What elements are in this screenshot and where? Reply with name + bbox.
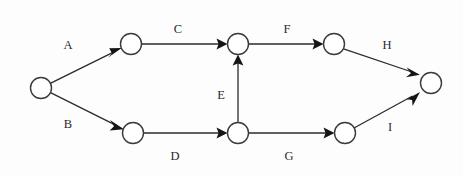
edge-label-i: I [388, 120, 392, 134]
node-n8[interactable] [335, 123, 356, 144]
node-n3[interactable] [228, 34, 249, 55]
edge-label-h: H [382, 38, 391, 52]
nodes-layer [31, 34, 442, 144]
edge-label-d: D [170, 149, 179, 163]
edge-a-line [50, 52, 114, 84]
edge-label-f: F [284, 22, 291, 36]
graph-svg: A B C D E F G H I [0, 0, 463, 176]
diagram-canvas: A B C D E F G H I [0, 0, 463, 176]
edge-a-arrowhead [108, 48, 122, 58]
edge-c [142, 39, 228, 50]
node-n7[interactable] [228, 123, 249, 144]
edge-label-g: G [284, 149, 293, 163]
edge-label-b: B [64, 117, 72, 131]
edge-e [233, 55, 244, 123]
node-n5[interactable] [421, 73, 442, 94]
edge-label-a: A [63, 38, 72, 52]
node-n4[interactable] [324, 34, 345, 55]
node-n6[interactable] [123, 123, 144, 144]
edge-a [50, 48, 122, 83]
edge-b-arrowhead [110, 120, 124, 130]
edge-label-e: E [217, 88, 225, 102]
edge-i-line [354, 96, 413, 128]
edge-g [249, 128, 335, 139]
edge-h-arrowhead [406, 68, 420, 78]
edge-i-arrowhead [407, 92, 420, 106]
edge-f [249, 39, 324, 50]
edge-b-line [51, 93, 117, 126]
node-n2[interactable] [121, 34, 142, 55]
edge-b [51, 93, 125, 131]
edge-h-line [344, 49, 412, 72]
edge-label-c: C [174, 22, 182, 36]
edge-d [144, 128, 228, 139]
node-n1[interactable] [31, 78, 52, 99]
edge-h [344, 49, 420, 78]
